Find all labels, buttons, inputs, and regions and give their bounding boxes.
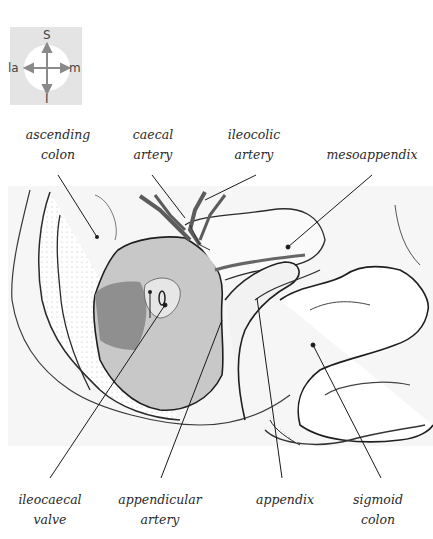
anatomy-illustration	[0, 0, 433, 539]
